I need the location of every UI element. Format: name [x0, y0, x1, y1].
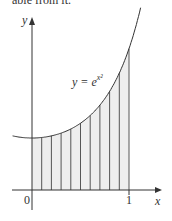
- function-label: y = ex²: [71, 73, 103, 89]
- y-axis-arrow-icon: [29, 17, 35, 25]
- x-axis-label: x: [154, 194, 161, 208]
- x-axis-arrow-icon: [155, 187, 162, 193]
- integral-plot: y x 0 1 y = ex²: [0, 0, 172, 221]
- x-tick-label-0: 0: [24, 193, 30, 207]
- x-tick-label-1: 1: [126, 193, 132, 207]
- y-axis-label: y: [21, 13, 28, 27]
